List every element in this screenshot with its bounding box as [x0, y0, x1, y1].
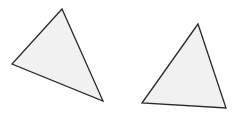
diagram-canvas — [0, 0, 239, 118]
